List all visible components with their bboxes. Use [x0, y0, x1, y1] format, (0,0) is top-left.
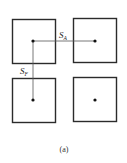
figure-caption: (a): [60, 145, 69, 154]
label-sa: SA: [59, 30, 68, 41]
center-dot-bottom-right: [93, 98, 96, 101]
center-dot-bottom-left: [31, 98, 34, 101]
label-sf: SF: [20, 66, 29, 77]
center-dot-top-left: [31, 39, 34, 42]
spacing-diagram: SA SF (a): [0, 0, 127, 163]
center-dot-top-right: [93, 39, 96, 42]
